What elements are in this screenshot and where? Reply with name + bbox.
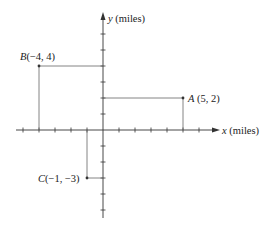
point-a-label: A (5, 2): [187, 93, 220, 105]
x-axis: [16, 128, 220, 133]
y-axis-label: y (miles): [107, 13, 146, 25]
point-b-marker: [38, 65, 41, 68]
x-axis-arrow-icon: [212, 128, 220, 133]
coordinate-plane: y (miles) x (miles) A (5, 2) B(−4, 4) C(…: [0, 0, 275, 226]
x-axis-label: x (miles): [221, 125, 260, 137]
point-a-marker: [182, 97, 185, 100]
point-c-marker: [86, 177, 89, 180]
y-axis-arrow-icon: [101, 12, 106, 20]
point-c-label: C(−1, −3): [38, 173, 80, 185]
point-b-label: B(−4, 4): [20, 51, 56, 63]
y-axis: [101, 12, 106, 218]
guide-lines: [39, 66, 183, 178]
